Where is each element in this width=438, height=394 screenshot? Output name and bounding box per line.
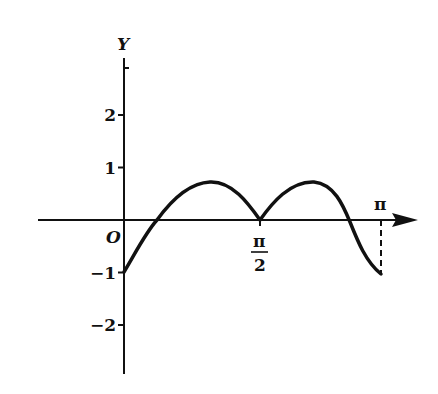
x-tick-label-pi: π: [374, 194, 386, 214]
x-tick-label-pi-half-den: 2: [254, 255, 266, 275]
y-tick-label: 1: [104, 158, 116, 178]
origin-label: O: [106, 227, 121, 247]
function-graph: 21−1−2 Y O π 2 π: [0, 0, 438, 394]
y-tick-label: −2: [90, 315, 116, 335]
x-tick-label-pi-half-num: π: [253, 231, 265, 251]
function-curve: [124, 182, 381, 274]
y-axis-label: Y: [117, 34, 131, 54]
y-tick-label: −1: [90, 263, 116, 283]
y-tick-label: 2: [104, 105, 116, 125]
